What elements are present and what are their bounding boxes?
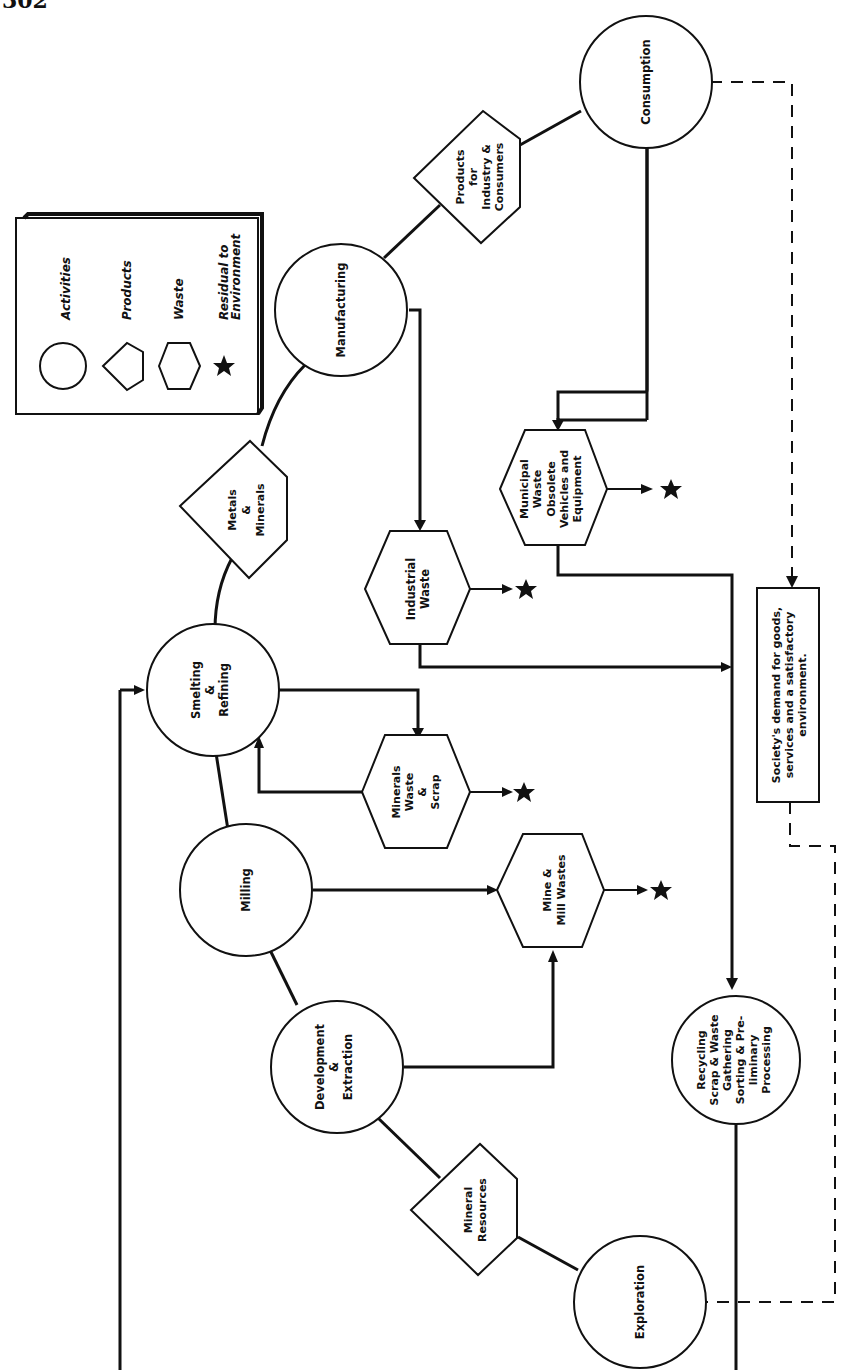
- products-label-3: Industry &: [480, 144, 493, 210]
- mine-mill-label-1: Mine &: [541, 868, 554, 912]
- products-label-4: Consumers: [493, 142, 506, 211]
- development-label-1: Development: [313, 1023, 327, 1110]
- product-metals-minerals: Metals & Minerals: [180, 441, 287, 578]
- legend-label-activities: Activities: [59, 257, 73, 321]
- recycling-label-4: Sorting & Pre-: [734, 1016, 747, 1104]
- mineral-resources-label-1: Mineral: [462, 1187, 475, 1234]
- products-label-1: Products: [454, 149, 467, 205]
- metals-label-3: Minerals: [254, 483, 267, 537]
- minerals-residual-star-icon: [513, 782, 535, 802]
- waste-industrial: Industrial Waste: [365, 531, 470, 644]
- society-label-3: environment.: [796, 653, 809, 736]
- society-demand-box: Society's demand for goods, services and…: [757, 588, 819, 802]
- products-label-2: for: [467, 168, 480, 186]
- waste-minerals-scrap: Minerals Waste & Scrap: [362, 735, 470, 848]
- smelting-label-2: &: [203, 685, 217, 695]
- page-number: 302: [2, 0, 48, 13]
- minerals-waste-label-4: Scrap: [429, 774, 442, 809]
- smelting-label-1: Smelting: [189, 661, 203, 719]
- waste-mine-mill: Mine & Mill Wastes: [497, 834, 604, 947]
- materials-flow-diagram: 302 Activities Products Waste Residual t…: [0, 0, 844, 1370]
- activity-development: Development & Extraction: [271, 1001, 403, 1133]
- municipal-label-4: Vehicles and: [558, 450, 571, 528]
- recycling-label-1: Recycling: [695, 1030, 708, 1089]
- society-label-2: services and a satisfactory: [783, 612, 796, 779]
- industrial-label-2: Waste: [418, 569, 432, 609]
- activity-recycling: Recycling Scrap & Waste Gathering Sortin…: [672, 996, 800, 1124]
- activity-smelting: Smelting & Refining: [147, 624, 279, 756]
- milling-label: Milling: [239, 868, 253, 912]
- waste-municipal: Municipal Waste Obsolete Vehicles and Eq…: [500, 430, 607, 545]
- legend-label-products: Products: [120, 260, 134, 320]
- activity-manufacturing: Manufacturing: [275, 244, 407, 376]
- legend-label-waste: Waste: [172, 278, 186, 320]
- municipal-label-5: Equipment: [571, 456, 584, 523]
- mine-mill-residual-star-icon: [650, 880, 672, 900]
- municipal-residual-star-icon: [660, 479, 682, 499]
- municipal-label-3: Obsolete: [545, 461, 558, 516]
- metals-label-1: Metals: [226, 489, 239, 531]
- manufacturing-label: Manufacturing: [334, 263, 348, 358]
- exploration-label: Exploration: [633, 1265, 647, 1339]
- legend: Activities Products Waste Residual to En…: [16, 214, 262, 414]
- legend-hexagon-icon: [159, 343, 200, 389]
- recycling-label-5: liminary: [747, 1035, 760, 1086]
- mineral-resources-label-2: Resources: [476, 1178, 489, 1242]
- activity-consumption: Consumption: [580, 16, 712, 148]
- recycling-label-2: Scrap & Waste: [708, 1015, 721, 1106]
- minerals-waste-label-1: Minerals: [390, 765, 403, 819]
- municipal-label-2: Waste: [531, 470, 544, 508]
- recycling-label-6: Processing: [760, 1026, 773, 1094]
- minerals-waste-label-2: Waste: [403, 773, 416, 811]
- society-label-1: Society's demand for goods,: [770, 607, 783, 783]
- activity-exploration: Exploration: [574, 1236, 706, 1368]
- product-industry-consumers: Products for Industry & Consumers: [414, 111, 520, 243]
- mine-mill-label-2: Mill Wastes: [555, 854, 568, 926]
- municipal-label-1: Municipal: [518, 459, 531, 519]
- consumption-label: Consumption: [639, 39, 653, 124]
- legend-circle-icon: [40, 343, 86, 389]
- development-label-2: &: [327, 1062, 341, 1072]
- development-label-3: Extraction: [341, 1034, 355, 1101]
- minerals-waste-label-3: &: [416, 787, 429, 797]
- industrial-residual-star-icon: [515, 579, 537, 599]
- legend-label-residual-2: Environment: [229, 232, 243, 320]
- industrial-label-1: Industrial: [404, 558, 418, 621]
- recycling-label-3: Gathering: [721, 1029, 734, 1091]
- metals-label-2: &: [240, 505, 253, 515]
- activity-milling: Milling: [180, 824, 312, 956]
- smelting-label-3: Refining: [217, 663, 231, 717]
